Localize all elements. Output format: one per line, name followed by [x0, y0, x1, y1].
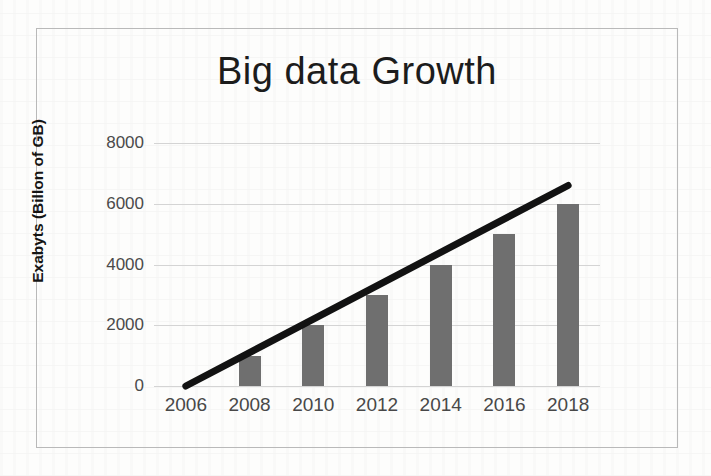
scanned-chart-page: Big data Growth Exabyts (Billon of GB) 8…: [0, 0, 711, 476]
x-axis-tick-labels: 2006 2008 2010 2012 2014 2016 2018: [154, 394, 600, 424]
y-axis-title: Exabyts (Billon of GB): [29, 101, 47, 301]
x-tick-label-2008: 2008: [218, 394, 282, 416]
x-tick-label-2016: 2016: [472, 394, 536, 416]
gridline-0-baseline: [154, 386, 600, 387]
x-tick-label-2010: 2010: [281, 394, 345, 416]
x-tick-label-2006: 2006: [154, 394, 218, 416]
trend-line: [154, 113, 600, 386]
trend-line-segment: [186, 186, 568, 386]
y-tick-label-0: 0: [88, 376, 144, 396]
plot-area: [154, 143, 600, 386]
y-axis-tick-labels: 8000 6000 4000 2000 0: [88, 0, 144, 476]
y-tick-label-6000: 6000: [88, 194, 144, 214]
x-tick-label-2018: 2018: [536, 394, 600, 416]
x-tick-label-2012: 2012: [345, 394, 409, 416]
y-tick-label-2000: 2000: [88, 315, 144, 335]
y-tick-label-8000: 8000: [88, 133, 144, 153]
x-tick-label-2014: 2014: [409, 394, 473, 416]
y-tick-label-4000: 4000: [88, 255, 144, 275]
